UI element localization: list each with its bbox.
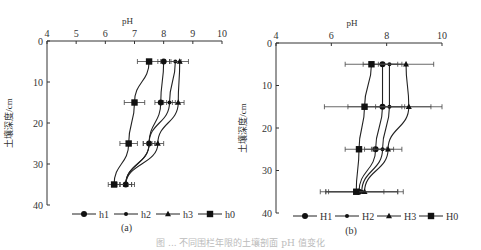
triangle-marker-icon xyxy=(155,140,161,145)
x-tick-label: 10 xyxy=(217,28,227,39)
square-marker-icon xyxy=(361,104,367,110)
series-line xyxy=(356,64,371,192)
y-tick-label: 30 xyxy=(33,159,43,170)
legend-item-H0: H0 xyxy=(419,211,458,222)
x-tick-label: 4 xyxy=(45,28,50,39)
legend-item-h0: h0 xyxy=(198,209,235,220)
legend: H1H2H3H0 xyxy=(293,211,458,222)
legend-item-h3: h3 xyxy=(156,209,193,220)
y-tick-label: 0 xyxy=(38,36,43,47)
y-tick-label: 20 xyxy=(33,118,43,129)
square-marker-icon xyxy=(356,146,362,152)
y-axis-title: 土壤深度/cm xyxy=(3,98,14,148)
legend-item-H1: H1 xyxy=(293,211,332,222)
legend-item-h1: h1 xyxy=(72,209,109,220)
figure: 45678910pH010203040土壤深度/cmh1h2h3h0(a)468… xyxy=(0,0,481,250)
legend-item-h2: h2 xyxy=(114,209,151,220)
y-tick-label: 30 xyxy=(262,165,272,176)
circle-marker-icon xyxy=(302,213,308,219)
legend-item-H2: H2 xyxy=(335,211,374,222)
triangle-marker-icon xyxy=(385,146,391,151)
y-tick-label: 40 xyxy=(33,200,43,211)
triangle-marker-icon xyxy=(177,58,183,63)
x-tick-label: 4 xyxy=(274,30,279,41)
triangle-marker-icon xyxy=(175,99,181,104)
square-marker-icon xyxy=(146,58,152,64)
legend: h1h2h3h0 xyxy=(72,209,235,220)
legend-label: H1 xyxy=(320,211,332,222)
series-h3 xyxy=(117,58,188,187)
series-h2 xyxy=(120,59,181,187)
square-marker-icon xyxy=(368,61,374,67)
legend-label: h0 xyxy=(225,209,235,220)
dot-marker-icon xyxy=(147,142,151,146)
square-marker-icon xyxy=(207,211,213,217)
series-h0 xyxy=(108,58,161,187)
x-axis-title: pH xyxy=(122,16,134,26)
x-tick-label: 6 xyxy=(329,30,334,41)
legend-label: H3 xyxy=(404,211,416,222)
y-tick-label: 0 xyxy=(267,38,272,49)
x-tick-label: 10 xyxy=(437,30,447,41)
x-axis-title: pH xyxy=(347,18,359,28)
circle-marker-icon xyxy=(161,59,167,65)
dot-marker-icon xyxy=(124,212,128,216)
series-line xyxy=(365,64,409,192)
y-tick-label: 10 xyxy=(33,77,43,88)
figure-caption: 图 ... 不同围栏年限的土壤剖面 pH 值变化 xyxy=(0,236,481,249)
square-marker-icon xyxy=(111,181,117,187)
y-tick-label: 40 xyxy=(262,208,272,219)
series-line xyxy=(126,62,180,185)
legend-label: h3 xyxy=(183,209,193,220)
dot-marker-icon xyxy=(168,101,172,105)
square-marker-icon xyxy=(131,99,137,105)
legend-item-H3: H3 xyxy=(377,211,416,222)
y-axis-title: 土壤深度/cm xyxy=(237,103,248,153)
series-line xyxy=(114,62,149,185)
triangle-marker-icon xyxy=(406,104,412,109)
x-tick-label: 7 xyxy=(132,28,137,39)
y-tick-label: 20 xyxy=(262,123,272,134)
y-tick-label: 10 xyxy=(262,80,272,91)
circle-marker-icon xyxy=(158,100,164,106)
x-tick-label: 6 xyxy=(103,28,108,39)
x-tick-label: 8 xyxy=(384,30,389,41)
circle-marker-icon xyxy=(81,211,87,217)
panel-label: (a) xyxy=(121,222,132,234)
x-tick-label: 8 xyxy=(161,28,166,39)
triangle-marker-icon xyxy=(403,61,409,66)
square-marker-icon xyxy=(428,213,434,219)
square-marker-icon xyxy=(353,189,359,195)
chart-canvas: 45678910pH010203040土壤深度/cmh1h2h3h0(a)468… xyxy=(0,0,481,250)
series-H3 xyxy=(326,61,442,194)
square-marker-icon xyxy=(125,140,131,146)
legend-label: h1 xyxy=(99,209,109,220)
legend-label: h2 xyxy=(141,209,151,220)
legend-label: H0 xyxy=(446,211,458,222)
x-tick-label: 5 xyxy=(74,28,79,39)
panel-b: 46810pH010203040土壤深度/cmH1H2H3H0(b) xyxy=(237,18,458,237)
series-H2 xyxy=(326,62,431,195)
legend-label: H2 xyxy=(362,211,374,222)
x-tick-label: 9 xyxy=(190,28,195,39)
dot-marker-icon xyxy=(345,214,349,218)
panel-a: 45678910pH010203040土壤深度/cmh1h2h3h0(a) xyxy=(3,16,235,234)
